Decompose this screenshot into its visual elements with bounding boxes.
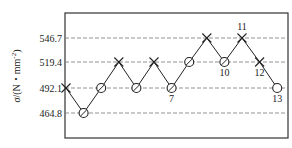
- y-tick-label: 464.8: [40, 108, 63, 119]
- point-label: 12: [255, 67, 265, 78]
- point-label: 10: [219, 67, 229, 78]
- runout-marker: [273, 84, 282, 93]
- y-tick-label: 519.4: [40, 57, 63, 68]
- point-label: 13: [272, 93, 282, 104]
- point-label: 11: [237, 21, 247, 32]
- point-label: 7: [169, 93, 174, 104]
- y-tick-label: 492.1: [40, 83, 63, 94]
- svg-text:σ/(N・mm-2): σ/(N・mm-2): [10, 49, 23, 102]
- y-axis-label: σ/(N・mm-2): [10, 49, 23, 102]
- y-tick-label: 546.7: [40, 33, 63, 44]
- staircase-chart: 546.7519.4492.1464.8σ/(N・mm-2)710111213: [0, 0, 292, 148]
